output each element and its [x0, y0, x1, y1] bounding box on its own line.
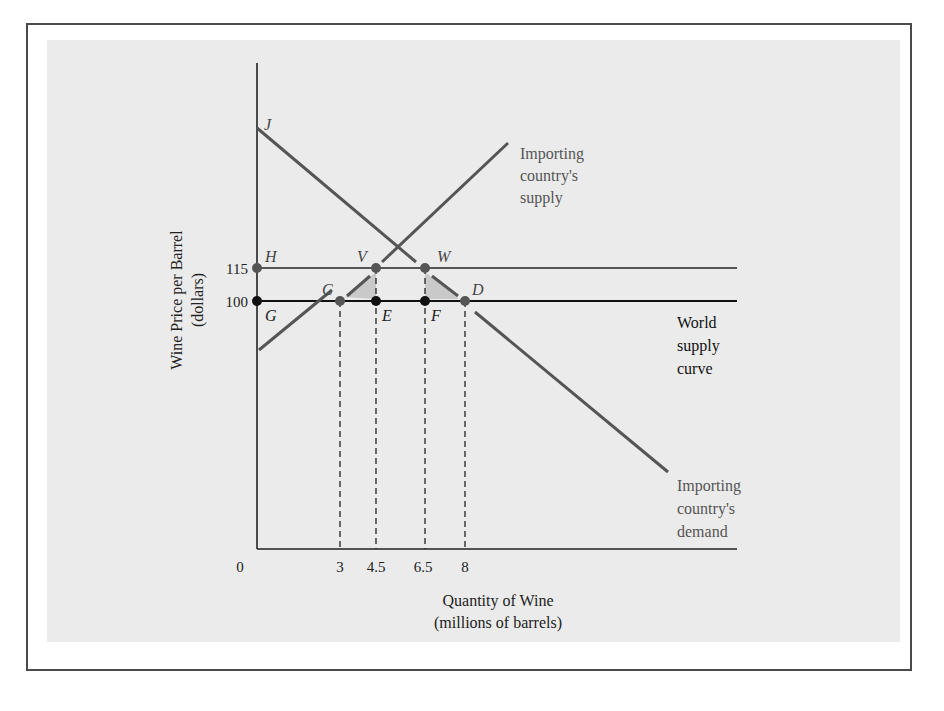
label-g: G — [265, 307, 277, 324]
point-d — [460, 296, 470, 306]
point-c — [335, 296, 345, 306]
dashed-guides — [340, 268, 465, 549]
x-tick-0: 0 — [236, 559, 244, 575]
point-h — [252, 263, 262, 273]
label-w: W — [437, 248, 452, 265]
demand-label-line3: demand — [677, 523, 728, 540]
world-supply-label-line3: curve — [677, 360, 713, 377]
point-w — [420, 263, 430, 273]
y-axis-title-line2: (dollars) — [189, 273, 207, 327]
tariff-chart: J H V W C D G E F 115 100 0 3 4.5 6.5 8 … — [0, 0, 944, 711]
supply-label-line2: country's — [520, 167, 578, 185]
x-tick-8: 8 — [461, 559, 469, 575]
label-j: J — [264, 116, 272, 133]
label-f: F — [430, 307, 441, 324]
x-axis-title-line2: (millions of barrels) — [434, 614, 562, 632]
point-f — [420, 296, 430, 306]
supply-label-line1: Importing — [520, 145, 584, 163]
point-v — [371, 263, 381, 273]
y-tick-100: 100 — [226, 294, 249, 310]
x-tick-3: 3 — [336, 559, 344, 575]
x-tick-6-5: 6.5 — [414, 559, 433, 575]
x-tick-4-5: 4.5 — [367, 559, 386, 575]
label-c: C — [322, 281, 333, 298]
world-supply-label-line1: World — [677, 314, 717, 331]
label-d: D — [471, 281, 484, 298]
y-axis-title-line1: Wine Price per Barrel — [168, 230, 186, 370]
label-v: V — [357, 248, 369, 265]
supply-label-line3: supply — [520, 189, 563, 207]
point-e — [371, 296, 381, 306]
y-tick-115: 115 — [226, 261, 248, 277]
demand-label-line1: Importing — [677, 477, 741, 495]
world-supply-label-line2: supply — [677, 337, 720, 355]
label-e: E — [381, 307, 392, 324]
demand-label-line2: country's — [677, 500, 735, 518]
x-axis-title-line1: Quantity of Wine — [442, 592, 553, 610]
point-g — [252, 296, 262, 306]
label-h: H — [264, 248, 278, 265]
